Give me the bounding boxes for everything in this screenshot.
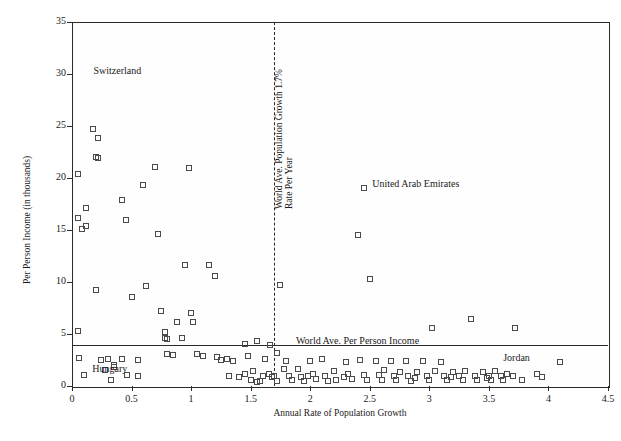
data-point xyxy=(289,377,295,383)
x-tick-label: 0.5 xyxy=(116,393,148,404)
chart-annotation: World Ave. Per Person Income xyxy=(296,335,419,346)
chart-annotation: Switzerland xyxy=(93,65,141,76)
data-point xyxy=(254,338,260,344)
data-point xyxy=(90,126,96,132)
data-point xyxy=(460,377,466,383)
x-tick-mark xyxy=(132,386,133,391)
data-point xyxy=(500,377,506,383)
data-point xyxy=(343,359,349,365)
data-point xyxy=(412,375,418,381)
data-point xyxy=(307,358,313,364)
x-tick-mark xyxy=(191,386,192,391)
y-tick-label: 10 xyxy=(42,275,66,286)
data-point xyxy=(170,352,176,358)
x-tick-label: 0 xyxy=(56,393,88,404)
data-point xyxy=(81,372,87,378)
y-tick-label: 0 xyxy=(42,379,66,390)
data-point xyxy=(484,375,490,381)
data-point xyxy=(242,371,248,377)
data-point xyxy=(182,262,188,268)
data-point xyxy=(214,354,220,360)
data-point xyxy=(95,135,101,141)
x-tick-label: 2 xyxy=(294,393,326,404)
data-point xyxy=(108,377,114,383)
x-axis-title: Annual Rate of Population Growth xyxy=(250,408,430,418)
data-point xyxy=(519,377,525,383)
data-point xyxy=(267,342,273,348)
data-point xyxy=(188,310,194,316)
y-tick-label: 20 xyxy=(42,171,66,182)
data-point xyxy=(158,308,164,314)
x-tick-label: 4 xyxy=(532,393,564,404)
data-point xyxy=(295,366,301,372)
data-point xyxy=(557,359,563,365)
y-tick-mark xyxy=(67,22,72,23)
data-point xyxy=(257,378,263,384)
data-point xyxy=(206,262,212,268)
data-point xyxy=(474,377,480,383)
x-tick-mark xyxy=(251,386,252,391)
data-point xyxy=(129,294,135,300)
data-point xyxy=(397,369,403,375)
data-point xyxy=(75,171,81,177)
data-point xyxy=(135,373,141,379)
data-point xyxy=(123,217,129,223)
data-point xyxy=(539,374,545,380)
data-point xyxy=(379,377,385,383)
data-point xyxy=(319,356,325,362)
data-point xyxy=(200,353,206,359)
data-point xyxy=(212,273,218,279)
data-point xyxy=(230,358,236,364)
data-point xyxy=(152,164,158,170)
plot-area xyxy=(72,22,610,388)
data-point xyxy=(162,335,168,341)
x-tick-mark xyxy=(548,386,549,391)
data-point xyxy=(143,283,149,289)
data-point xyxy=(512,325,518,331)
data-point xyxy=(245,353,251,359)
data-point xyxy=(355,232,361,238)
data-point xyxy=(403,358,409,364)
data-point xyxy=(174,319,180,325)
data-point xyxy=(301,378,307,384)
x-tick-label: 1.5 xyxy=(235,393,267,404)
data-point xyxy=(140,182,146,188)
y-tick-mark xyxy=(67,334,72,335)
x-tick-label: 3.5 xyxy=(473,393,505,404)
chart-annotation: Rate Per Year xyxy=(284,157,294,209)
data-point xyxy=(76,355,82,361)
data-point xyxy=(274,350,280,356)
data-point xyxy=(83,205,89,211)
data-point xyxy=(510,373,516,379)
data-point xyxy=(373,358,379,364)
data-point xyxy=(262,356,268,362)
data-point xyxy=(283,358,289,364)
data-point xyxy=(349,376,355,382)
x-tick-mark xyxy=(370,386,371,391)
data-point xyxy=(333,377,339,383)
x-tick-mark xyxy=(429,386,430,391)
data-point xyxy=(341,374,347,380)
data-point xyxy=(448,374,454,380)
data-point xyxy=(75,328,81,334)
data-point xyxy=(75,215,81,221)
data-point xyxy=(95,155,101,161)
y-tick-mark xyxy=(67,178,72,179)
data-point xyxy=(381,367,387,373)
x-tick-label: 2.5 xyxy=(354,393,386,404)
data-point xyxy=(388,358,394,364)
data-point xyxy=(190,319,196,325)
data-point xyxy=(432,368,438,374)
data-point xyxy=(331,368,337,374)
data-point xyxy=(313,376,319,382)
data-point xyxy=(135,357,141,363)
x-tick-mark xyxy=(489,386,490,391)
chart-annotation: World Ave. Population Growth 1.7% xyxy=(274,69,284,209)
y-tick-label: 5 xyxy=(42,327,66,338)
y-tick-label: 25 xyxy=(42,119,66,130)
chart-annotation: United Arab Emirates xyxy=(372,178,459,189)
data-point xyxy=(438,359,444,365)
data-point xyxy=(426,377,432,383)
data-point xyxy=(186,165,192,171)
data-point xyxy=(179,335,185,341)
